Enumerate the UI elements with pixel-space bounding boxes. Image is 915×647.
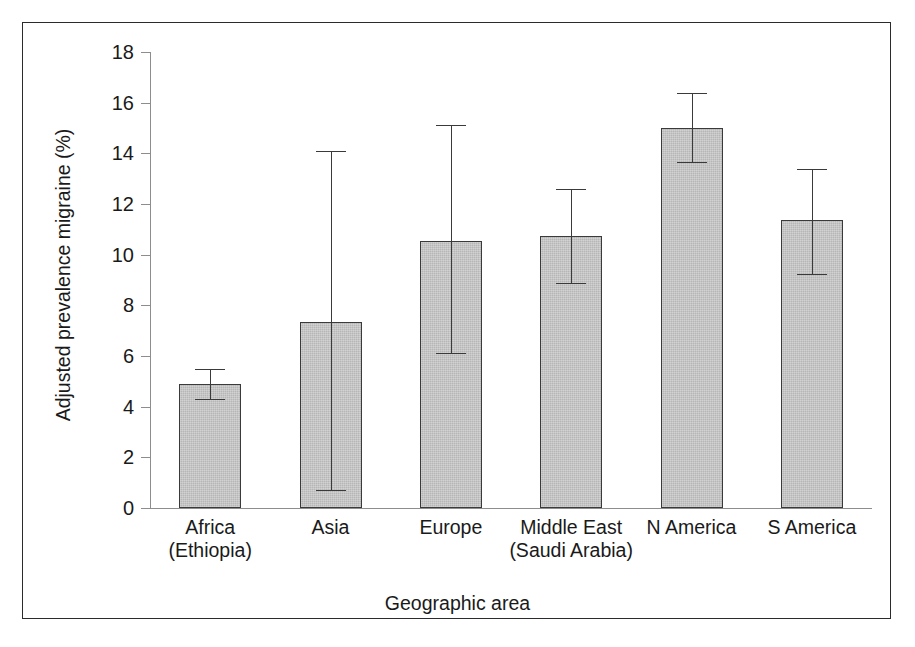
y-tick-label-8: 8 (74, 295, 134, 315)
y-tick-wrap-4: 4 (66, 397, 134, 417)
error-bar-cap-lower-6 (797, 274, 827, 275)
y-tick-wrap-18: 18 (66, 42, 134, 62)
y-tick-wrap-10: 10 (66, 245, 134, 265)
error-bar-cap-lower-5 (677, 162, 707, 163)
x-tick-label-6: S America (746, 516, 878, 539)
y-tick-mark-6 (141, 356, 150, 357)
error-bar-cap-upper-4 (556, 189, 586, 190)
y-tick-label-12: 12 (74, 194, 134, 214)
error-bar-cap-upper-1 (195, 369, 225, 370)
plot-area: Adjusted prevalence migraine (%) 18 16 1… (0, 0, 915, 647)
y-tick-wrap-12: 12 (66, 194, 134, 214)
error-bar-cap-lower-1 (195, 399, 225, 400)
bar-n-america (661, 128, 723, 508)
x-axis-title: Geographic area (0, 592, 915, 614)
y-tick-label-2: 2 (74, 447, 134, 467)
y-tick-mark-12 (141, 204, 150, 205)
x-tick-label-5: N America (625, 516, 757, 539)
y-tick-wrap-14: 14 (66, 143, 134, 163)
y-tick-wrap-16: 16 (66, 93, 134, 113)
y-tick-label-18: 18 (74, 42, 134, 62)
y-tick-mark-14 (141, 153, 150, 154)
bar-africa-ethiopia (179, 384, 241, 508)
error-bar-cap-upper-5 (677, 93, 707, 94)
figure-root: Adjusted prevalence migraine (%) 18 16 1… (0, 0, 915, 647)
x-axis-line (150, 508, 872, 509)
y-tick-wrap-2: 2 (66, 447, 134, 467)
error-bar-stem-2 (331, 151, 332, 490)
y-axis-line (150, 52, 151, 508)
error-bar-cap-lower-3 (436, 353, 466, 354)
error-bar-cap-lower-2 (316, 490, 346, 491)
error-bar-cap-lower-4 (556, 283, 586, 284)
y-tick-label-16: 16 (74, 93, 134, 113)
error-bar-cap-upper-2 (316, 151, 346, 152)
y-tick-mark-0 (141, 508, 150, 509)
y-tick-label-10: 10 (74, 245, 134, 265)
error-bar-cap-upper-6 (797, 169, 827, 170)
y-tick-label-0: 0 (74, 498, 134, 518)
y-tick-mark-18 (141, 52, 150, 53)
y-tick-mark-16 (141, 103, 150, 104)
x-tick-label-4: Middle East(Saudi Arabia) (505, 516, 637, 562)
y-tick-mark-10 (141, 255, 150, 256)
y-tick-wrap-0: 0 (66, 498, 134, 518)
y-tick-mark-4 (141, 407, 150, 408)
error-bar-stem-3 (451, 125, 452, 353)
error-bar-stem-5 (692, 93, 693, 163)
y-tick-wrap-8: 8 (66, 295, 134, 315)
y-tick-label-14: 14 (74, 143, 134, 163)
y-tick-label-4: 4 (74, 397, 134, 417)
error-bar-stem-1 (210, 369, 211, 399)
x-tick-label-1: Africa(Ethiopia) (144, 516, 276, 562)
y-tick-mark-2 (141, 457, 150, 458)
x-tick-label-2: Asia (264, 516, 396, 539)
x-tick-label-3: Europe (385, 516, 517, 539)
error-bar-stem-4 (571, 189, 572, 283)
y-tick-mark-8 (141, 305, 150, 306)
y-tick-wrap-6: 6 (66, 346, 134, 366)
error-bar-cap-upper-3 (436, 125, 466, 126)
error-bar-stem-6 (812, 169, 813, 274)
y-tick-label-6: 6 (74, 346, 134, 366)
